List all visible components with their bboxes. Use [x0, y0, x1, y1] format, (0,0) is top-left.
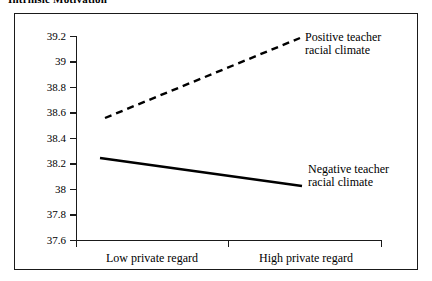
legend-negative-line2: racial climate: [308, 176, 389, 189]
y-tick-label-37-6: 37.6: [20, 235, 66, 246]
y-tick-label-38: 38: [20, 184, 66, 195]
legend-negative-line1: Negative teacher: [308, 163, 389, 176]
legend-label-positive-teacher-racial-climate: Positive teacher racial climate: [305, 31, 381, 56]
y-tick-label-39: 39: [20, 56, 66, 67]
y-tick-label-38-2: 38.2: [20, 158, 66, 169]
y-tick-marks: [70, 37, 77, 241]
series-line-positive-teacher-racial-climate: [105, 38, 300, 118]
y-tick-label-39-2: 39.2: [20, 31, 66, 42]
legend-positive-line1: Positive teacher: [305, 31, 381, 44]
x-tick-label-low-private-regard: Low private regard: [92, 252, 212, 265]
x-tick-label-high-private-regard: High private regard: [244, 252, 368, 265]
y-tick-label-38-6: 38.6: [20, 107, 66, 118]
legend-positive-line2: racial climate: [305, 44, 381, 57]
y-tick-label-38-8: 38.8: [20, 82, 66, 93]
legend-label-negative-teacher-racial-climate: Negative teacher racial climate: [308, 163, 389, 188]
chart-figure: Intrinsic Motivation: [0, 0, 432, 281]
y-tick-label-38-4: 38.4: [20, 133, 66, 144]
x-tick-marks: [77, 241, 382, 248]
y-tick-label-37-8: 37.8: [20, 209, 66, 220]
series-line-negative-teacher-racial-climate: [100, 158, 302, 186]
